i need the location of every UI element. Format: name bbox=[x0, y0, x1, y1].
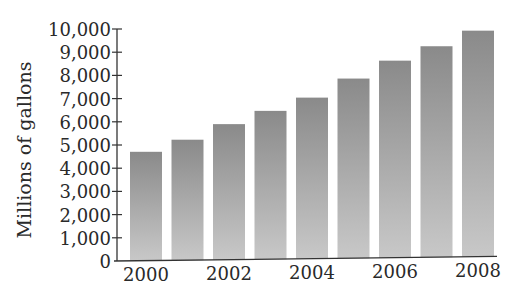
y-tick-label: 0 bbox=[100, 251, 111, 272]
bar-2000 bbox=[130, 152, 162, 261]
bar-chart: Millions of gallons 01,0002,0003,0004,00… bbox=[0, 0, 523, 302]
y-tick-label: 6,000 bbox=[59, 111, 111, 132]
bar-2006 bbox=[379, 61, 411, 258]
bar-2008 bbox=[462, 31, 494, 257]
y-tick-label: 2,000 bbox=[59, 204, 111, 225]
x-tick-label: 2008 bbox=[455, 260, 501, 281]
bar-2007 bbox=[421, 46, 453, 257]
x-tick-label: 2002 bbox=[206, 263, 252, 284]
y-tick-label: 7,000 bbox=[59, 88, 111, 109]
y-tick-label: 8,000 bbox=[59, 65, 111, 86]
x-tick-label: 2000 bbox=[123, 264, 169, 285]
bar-2001 bbox=[172, 140, 204, 261]
bar-2004 bbox=[296, 98, 328, 259]
y-tick-label: 1,000 bbox=[59, 227, 111, 248]
x-tick-label: 2004 bbox=[289, 262, 335, 283]
y-tick-label: 10,000 bbox=[48, 19, 111, 40]
bars bbox=[130, 31, 494, 261]
x-tick-label: 2006 bbox=[372, 261, 418, 282]
y-tick-label: 9,000 bbox=[59, 42, 111, 63]
y-tick-label: 3,000 bbox=[59, 181, 111, 202]
bar-2002 bbox=[213, 124, 245, 260]
y-tick-label: 4,000 bbox=[59, 158, 111, 179]
bar-2005 bbox=[338, 79, 370, 259]
y-tick-label: 5,000 bbox=[59, 135, 111, 156]
bar-2003 bbox=[255, 111, 287, 259]
